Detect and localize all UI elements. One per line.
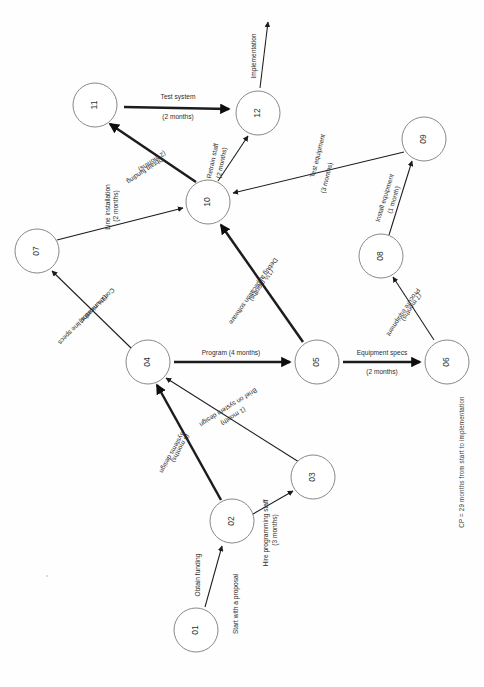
edge-06-to-08: Procure equipment (7 months) [385, 277, 434, 340]
node-07-label: 07 [31, 246, 41, 256]
edge-line-11-12 [124, 107, 229, 109]
node-07[interactable]: 07 [15, 229, 59, 273]
edge-label-program: Program (4 months) [202, 349, 261, 357]
node-05-label: 05 [311, 357, 321, 367]
edge-line-02-03 [253, 491, 293, 514]
edge-label-line-installation: Line installation [104, 184, 111, 230]
node-06[interactable]: 06 [425, 340, 469, 384]
edge-label-test-equipment-duration: (3 months) [319, 162, 334, 195]
edge-10-to-12: Retrain staff (2 months) [205, 136, 248, 181]
node-03-label: 03 [307, 472, 317, 482]
node-01[interactable]: 01 [174, 608, 218, 652]
edge-label-debug-application-software: Debug application software [227, 256, 279, 326]
node-10[interactable]: 10 [186, 180, 230, 224]
edge-line-01-02 [205, 546, 222, 607]
edge-label-obtain-funding-01-02: Obtain funding [194, 553, 202, 596]
node-01-label: 01 [190, 625, 200, 635]
edge-01-to-02: Obtain funding [194, 546, 222, 607]
edge-start-to-01: Start with a proposal [232, 573, 240, 634]
edge-label-equipment-specs: Equipment specs [357, 349, 408, 357]
edge-label-test-system-duration: (2 months) [162, 113, 194, 121]
edge-02-to-04: Systems design (6 months) [157, 385, 221, 500]
edge-line-12-end [260, 22, 268, 88]
node-03[interactable]: 03 [291, 455, 335, 499]
edge-09-to-10: Test equipment (3 months) [233, 133, 404, 194]
edge-05-to-06: Equipment specs (2 months) [343, 349, 420, 376]
node-09[interactable]: 09 [402, 117, 446, 161]
node-10-label: 10 [202, 197, 212, 207]
edge-08-to-09: Install equipment (1 month) [374, 161, 412, 235]
node-02-label: 02 [226, 516, 236, 526]
node-08[interactable]: 08 [359, 234, 403, 278]
edge-label-test-system: Test system [161, 93, 196, 101]
edge-label-hire-programming-staff: Hire programming staff [262, 499, 270, 566]
node-04-label: 04 [142, 357, 152, 367]
node-12[interactable]: 12 [236, 91, 280, 135]
diagram-canvas: Start with a proposal Obtain funding Hir… [0, 0, 484, 687]
node-11-label: 11 [89, 100, 99, 109]
node-11[interactable]: 11 [73, 83, 117, 127]
edge-11-to-12: Test system (2 months) [124, 93, 229, 121]
node-02[interactable]: 02 [210, 499, 254, 543]
node-08-label: 08 [375, 251, 385, 261]
page-speck [46, 575, 48, 577]
edge-04-to-05: Program (4 months) [174, 349, 290, 362]
edge-label-implementation: Implementation [250, 33, 258, 78]
network-diagram: Start with a proposal Obtain funding Hir… [0, 0, 484, 687]
node-04[interactable]: 04 [126, 340, 170, 384]
edge-07-to-10: Line installation (2 months) [57, 184, 183, 240]
critical-path-note: CP = 29 months from start to implementat… [458, 396, 466, 528]
edge-line-10-11 [110, 124, 196, 182]
node-06-label: 06 [441, 357, 451, 367]
edge-02-to-03: Hire programming staff (3 months) [253, 491, 293, 566]
edge-05-to-10: Debug application software (1½ months) [221, 225, 303, 342]
edge-label-equipment-specs-duration: (2 months) [366, 368, 398, 376]
edge-03-to-04: Brief on system design (1 month) [166, 378, 299, 462]
edge-label-line-installation-duration: (2 months) [112, 190, 120, 222]
node-12-label: 12 [252, 108, 262, 118]
edge-04-to-07: Communication line specs (1½ months) [52, 271, 131, 348]
edge-10-to-11: Obtain funding (2 months) [110, 124, 196, 186]
node-05[interactable]: 05 [295, 340, 339, 384]
edge-label-start-with-a-proposal: Start with a proposal [232, 573, 240, 634]
edge-label-hire-programming-staff-duration: (3 months) [271, 514, 279, 546]
node-09-label: 09 [418, 134, 428, 144]
edge-line-07-10 [57, 208, 183, 240]
edge-label-communication-line-specs-duration: (1½ months) [77, 293, 109, 325]
edge-12-to-end: Implementation [250, 22, 268, 88]
